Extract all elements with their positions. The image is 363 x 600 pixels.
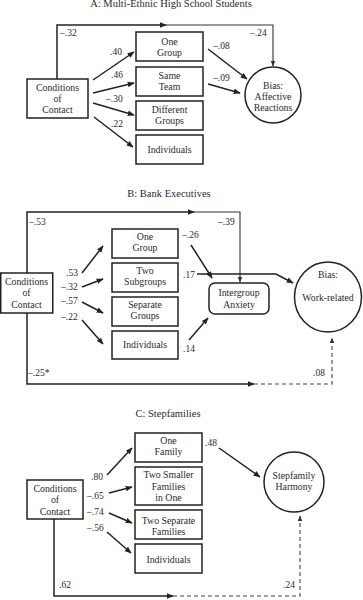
path-arrow: [189, 318, 208, 340]
mediator-label-line: Two Separate: [142, 515, 196, 526]
mediator-one-group: One Group: [112, 229, 178, 258]
source-node: Conditions of Contact: [27, 79, 88, 118]
mediator-label-line: Groups: [131, 310, 160, 321]
source-node: Conditions of Contact: [27, 480, 83, 519]
outcome-label-line: Stepfamily: [273, 470, 316, 481]
mediator-label-line: Group: [132, 242, 157, 253]
path-arrow: [82, 246, 103, 273]
mediator-separate-groups: Separate Groups: [112, 297, 178, 326]
mediator-label-line: Groups: [155, 115, 184, 126]
panel-b: B: Bank Executives –.53 –.39 Conditions …: [1, 188, 362, 384]
source-node: Conditions of Contact: [1, 273, 53, 313]
coef-label: .80: [91, 472, 103, 482]
mediator-different-groups: Different Groups: [136, 101, 203, 130]
coef-direct-target: –.24: [249, 28, 267, 38]
mediator-label-line: Separate: [128, 299, 162, 310]
mediator-two-separate-families: Two Separate Families: [135, 510, 202, 539]
coef-top-source: –.53: [28, 217, 46, 227]
coef-direct-source: –.32: [59, 28, 77, 38]
source-label-line: of: [53, 93, 62, 104]
coef-label: –.08: [212, 41, 230, 51]
coef-label: .46: [111, 70, 123, 80]
source-label-line: of: [51, 494, 60, 505]
outcome-label-line: Bias:: [263, 80, 283, 91]
panel-a-title: A: Multi-Ethnic High School Students: [90, 0, 252, 9]
outcome-label-line: Work-related: [302, 292, 354, 303]
path-arrow: [107, 448, 132, 475]
coef-label: .48: [205, 438, 217, 448]
coef-bottom-source: –.25*: [27, 368, 50, 378]
mediator-label-line: Group: [157, 47, 182, 58]
mediator-same-team: Same Team: [136, 67, 203, 96]
path-arrow: [208, 84, 240, 93]
path-arrow: [82, 320, 103, 344]
source-label-line: Contact: [11, 299, 42, 310]
source-label-line: Conditions: [36, 82, 79, 93]
mediator-label-line: Individuals: [146, 554, 190, 565]
mediator-one-group: One Group: [136, 32, 203, 61]
path-arrow: [82, 279, 103, 287]
coef-top-target: –.39: [217, 217, 235, 227]
panel-a: A: Multi-Ethnic High School Students –.3…: [27, 0, 301, 164]
outcome-node: Stepfamily Harmony: [264, 452, 324, 512]
mediator-one-family: One Family: [135, 433, 202, 462]
coef-label: .14: [183, 344, 195, 354]
mediator-label-line: Two: [136, 265, 153, 276]
mediator-label-line: in One: [155, 492, 182, 503]
coef-label: .53: [66, 268, 78, 278]
outcome-label-line: Harmony: [275, 481, 312, 492]
coef-label: .22: [111, 119, 123, 129]
intermediate-node: Intergroup Anxiety: [209, 283, 269, 314]
coef-label: –.22: [60, 312, 78, 322]
coef-label: –.32: [60, 282, 78, 292]
path-arrow: [107, 532, 131, 553]
coef-label: –.57: [60, 296, 78, 306]
mediator-label-line: One: [161, 36, 178, 47]
coef-label: .40: [110, 47, 122, 57]
panel-b-title: B: Bank Executives: [127, 188, 210, 199]
path-arrow: [109, 487, 132, 493]
coef-bottom-target: .08: [313, 368, 325, 378]
mediator-label-line: Same: [159, 70, 181, 81]
mediator-label-line: Individuals: [147, 144, 191, 155]
coef-label: –.30: [105, 94, 123, 104]
mediator-label-line: Individuals: [123, 339, 167, 350]
path-arrow: [82, 302, 103, 313]
mediator-label-line: Team: [159, 81, 181, 92]
outcome-node: Bias: Affective Reactions: [245, 67, 301, 123]
mediator-label-line: Families: [152, 481, 186, 492]
coef-label: –.26: [181, 230, 199, 240]
mediator-label-line: Families: [152, 526, 186, 537]
coef-label: .17: [183, 270, 195, 280]
outcome-label-line: Bias:: [318, 269, 338, 280]
path-arrow: [93, 83, 134, 93]
path-diagram: A: Multi-Ethnic High School Students –.3…: [0, 0, 363, 600]
mediator-label-line: One: [137, 231, 154, 242]
source-label-line: Contact: [40, 506, 71, 517]
source-label-line: of: [22, 287, 31, 298]
outcome-label-line: Reactions: [254, 102, 293, 113]
mediator-label-line: Family: [155, 446, 183, 457]
path-arrow: [93, 103, 134, 115]
mediator-individuals: Individuals: [135, 544, 202, 573]
coef-label: –.65: [86, 491, 104, 501]
coef-bottom-target: .24: [283, 580, 295, 590]
panel-c-title: C: Stepfamilies: [135, 408, 200, 419]
mediator-label-line: Two Smaller: [143, 469, 194, 480]
coef-label: –.56: [86, 523, 104, 533]
source-label-line: Contact: [42, 104, 73, 115]
panel-c: C: Stepfamilies Conditions of Contact On…: [27, 408, 324, 596]
coef-bottom-source: .62: [59, 580, 71, 590]
mediator-label-line: Different: [152, 104, 188, 115]
coef-label: –.09: [212, 73, 230, 83]
source-label-line: Conditions: [5, 276, 48, 287]
mediator-label-line: Subgroups: [124, 276, 166, 287]
coef-label: –.74: [86, 507, 104, 517]
intermediate-label-line: Intergroup: [218, 287, 259, 298]
mediator-individuals: Individuals: [136, 135, 203, 164]
outcome-node: Bias: Work-related: [295, 262, 362, 332]
mediator-two-subgroups: Two Subgroups: [112, 263, 178, 292]
intermediate-label-line: Anxiety: [223, 299, 255, 310]
source-label-line: Conditions: [33, 483, 76, 494]
path-arrow: [219, 448, 260, 477]
